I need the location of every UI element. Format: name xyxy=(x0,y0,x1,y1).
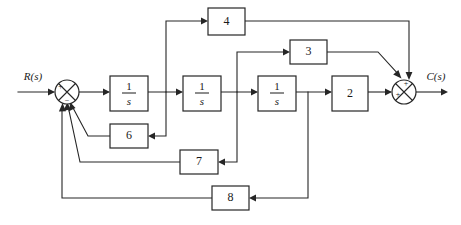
wire-output-cs xyxy=(416,89,448,96)
block-gain-7[interactable]: 7 xyxy=(180,150,218,174)
arrowhead-gain3-in xyxy=(283,49,290,56)
gain-4-label: 4 xyxy=(224,14,230,28)
arrowhead-output-cs xyxy=(441,89,448,96)
wire-integrator3-to-gain2 xyxy=(296,89,332,96)
arrowhead-output-summer-in xyxy=(385,89,392,96)
output-summer-sign-plus-left: + xyxy=(396,90,401,99)
block-gain-3[interactable]: 3 xyxy=(290,40,327,64)
integrator-1-numerator: 1 xyxy=(126,80,132,92)
block-integrator-1[interactable]: 1 s xyxy=(110,76,148,111)
integrator-3-denominator: s xyxy=(275,95,279,107)
arrowhead-integrator1-in xyxy=(103,89,110,96)
arrowhead-integrator2-in xyxy=(176,89,183,96)
arrowhead-integrator3-in xyxy=(251,89,258,96)
block-integrator-3[interactable]: 1 s xyxy=(258,76,296,111)
arrowhead-gain7-in xyxy=(218,159,225,166)
input-summer-sign-plus: + xyxy=(58,82,63,91)
integrator-2-denominator: s xyxy=(200,95,204,107)
gain-2-label: 2 xyxy=(347,86,353,100)
summing-junction-output[interactable]: + + xyxy=(392,79,416,104)
gain-6-label: 6 xyxy=(126,128,132,142)
arrowhead-gain6-in xyxy=(148,133,155,140)
wire-path-gain6-in xyxy=(148,92,166,139)
integrator-3-numerator: 1 xyxy=(274,80,280,92)
wire-gain2-to-output-summer xyxy=(368,89,392,96)
integrator-2-numerator: 1 xyxy=(199,80,205,92)
gain-8-label: 8 xyxy=(228,190,234,204)
arrowhead-input-summer xyxy=(48,89,55,96)
block-gain-4[interactable]: 4 xyxy=(208,8,245,35)
block-gain-6[interactable]: 6 xyxy=(110,124,148,148)
output-label-cs: C(s) xyxy=(427,70,446,83)
gain-7-label: 7 xyxy=(196,154,202,168)
gain-3-label: 3 xyxy=(306,44,312,58)
arrowhead-gain8-in xyxy=(249,195,256,202)
arrowhead-gain2-in xyxy=(325,89,332,96)
block-diagram-canvas: + − + + 1 s 1 s 1 s xyxy=(0,0,461,225)
wire-path-gain6-out xyxy=(69,103,111,137)
wire-integrator2-to-integrator3 xyxy=(221,89,258,96)
block-gain-2[interactable]: 2 xyxy=(332,76,368,111)
wire-path-gain3-out xyxy=(327,52,402,79)
wire-path-gain4-out xyxy=(245,21,412,80)
summing-junction-input[interactable]: + − xyxy=(55,80,79,105)
output-summer-sign-plus-top: + xyxy=(404,79,409,88)
wire-input-rs xyxy=(18,89,55,96)
arrowhead-gain4-in xyxy=(201,18,208,25)
input-summer-sign-minus: − xyxy=(65,96,70,105)
block-gain-8[interactable]: 8 xyxy=(212,186,249,210)
wire-summer-to-integrator1 xyxy=(79,89,110,96)
block-integrator-2[interactable]: 1 s xyxy=(183,76,221,111)
control-system-block-diagram: + − + + 1 s 1 s 1 s xyxy=(0,0,461,225)
input-label-rs: R(s) xyxy=(23,70,43,83)
integrator-1-denominator: s xyxy=(127,95,131,107)
